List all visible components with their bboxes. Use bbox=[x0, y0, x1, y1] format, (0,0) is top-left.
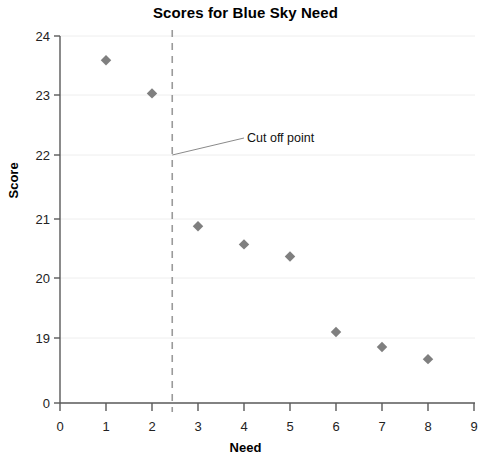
cut-off-point-annotation: Cut off point bbox=[247, 131, 314, 145]
data-point bbox=[193, 221, 203, 231]
data-points bbox=[101, 55, 433, 364]
y-axis bbox=[54, 36, 60, 403]
data-point bbox=[147, 88, 157, 98]
x-axis bbox=[60, 403, 475, 411]
plot-area bbox=[0, 0, 491, 466]
data-point bbox=[377, 342, 387, 352]
data-point bbox=[423, 354, 433, 364]
scatter-chart: Scores for Blue Sky Need Score Need 24 2… bbox=[0, 0, 491, 466]
data-point bbox=[101, 55, 111, 65]
annotation-pointer-line bbox=[172, 138, 244, 155]
data-point bbox=[239, 239, 249, 249]
gridlines bbox=[60, 36, 475, 338]
data-point bbox=[285, 251, 295, 261]
data-point bbox=[331, 327, 341, 337]
